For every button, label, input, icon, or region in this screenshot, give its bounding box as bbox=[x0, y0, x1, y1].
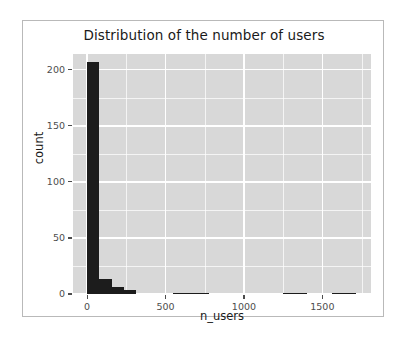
histogram-bar bbox=[332, 293, 344, 294]
x-tick-mark bbox=[322, 295, 323, 299]
y-tick-mark bbox=[68, 293, 72, 294]
y-tick-mark bbox=[68, 237, 72, 238]
y-tick-label: 0 bbox=[25, 288, 65, 299]
histogram-bar bbox=[124, 290, 136, 294]
x-tick-mark bbox=[165, 295, 166, 299]
histogram-bar bbox=[173, 293, 185, 294]
histogram-bar bbox=[283, 293, 295, 294]
histogram-bar bbox=[185, 293, 197, 294]
histogram-bar bbox=[295, 293, 307, 294]
page-title: Distribution of the number of users bbox=[23, 27, 385, 43]
y-tick-label: 50 bbox=[25, 232, 65, 243]
histogram-bar bbox=[112, 287, 124, 294]
histogram-bar bbox=[197, 293, 209, 294]
y-tick-mark bbox=[68, 125, 72, 126]
y-tick-mark bbox=[68, 181, 72, 182]
histogram-bar bbox=[87, 62, 99, 294]
x-tick-mark bbox=[87, 295, 88, 299]
x-tick-mark bbox=[243, 295, 244, 299]
plot-panel bbox=[73, 54, 371, 294]
y-axis-title: count bbox=[32, 108, 46, 188]
x-axis-title: n_users bbox=[73, 309, 371, 323]
histogram-bar bbox=[99, 279, 111, 294]
figure-card: Distribution of the number of users 0501… bbox=[22, 20, 384, 317]
y-tick-label: 200 bbox=[25, 64, 65, 75]
y-tick-mark bbox=[68, 69, 72, 70]
histogram-bar bbox=[344, 293, 356, 294]
histogram-bars bbox=[73, 54, 371, 294]
